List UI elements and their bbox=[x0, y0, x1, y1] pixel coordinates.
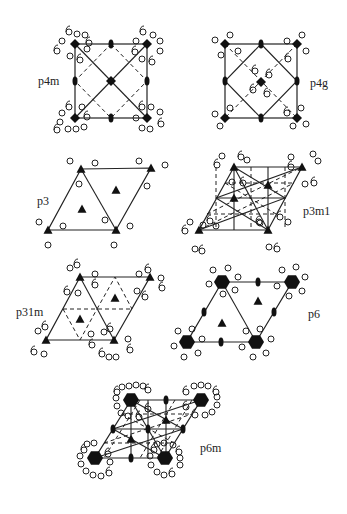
label-p3: p3 bbox=[37, 195, 49, 207]
label-p4m: p4m bbox=[38, 75, 59, 87]
glide-line bbox=[63, 309, 97, 340]
cell-diagonal bbox=[222, 282, 256, 342]
label-p3m1: p3m1 bbox=[303, 205, 330, 217]
glide-line bbox=[97, 277, 132, 309]
label-p6m: p6m bbox=[200, 442, 221, 454]
panel-p3m1 bbox=[182, 151, 321, 254]
label-p4g: p4g bbox=[310, 77, 328, 89]
cell-diagonal bbox=[81, 169, 116, 230]
threefold-axis-icons bbox=[218, 297, 263, 327]
unit-cell bbox=[48, 168, 151, 230]
panel-p6m bbox=[77, 382, 220, 479]
panel-p4g bbox=[212, 32, 309, 129]
panel-p31m bbox=[31, 259, 165, 360]
label-p31m: p31m bbox=[16, 306, 43, 318]
label-p6: p6 bbox=[308, 308, 320, 320]
threefold-axis-icons bbox=[44, 164, 156, 234]
panel-p3 bbox=[36, 158, 168, 248]
panel-p4m bbox=[54, 26, 164, 133]
panel-p6 bbox=[171, 264, 308, 360]
